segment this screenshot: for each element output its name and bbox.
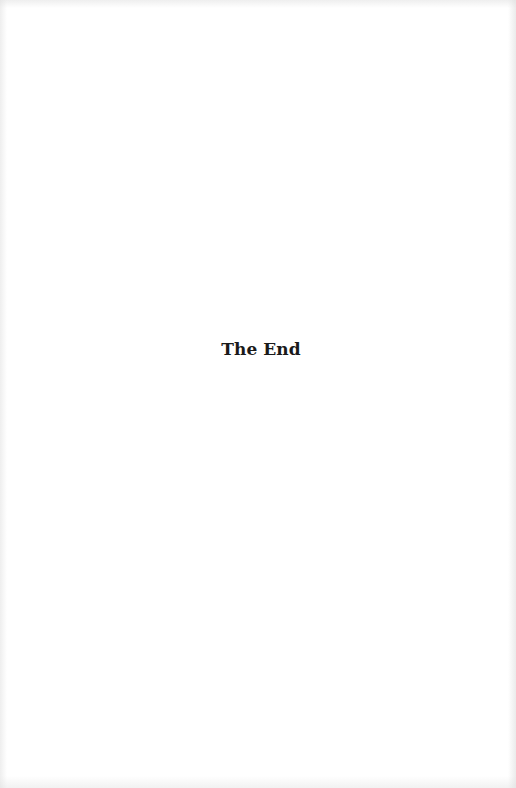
scan-edge-left [0,0,7,788]
the-end-heading: The End [0,339,516,359]
scan-edge-top [0,0,516,8]
book-page: The End [0,0,516,788]
scan-edge-bottom [0,776,516,788]
scan-edge-right [508,0,516,788]
